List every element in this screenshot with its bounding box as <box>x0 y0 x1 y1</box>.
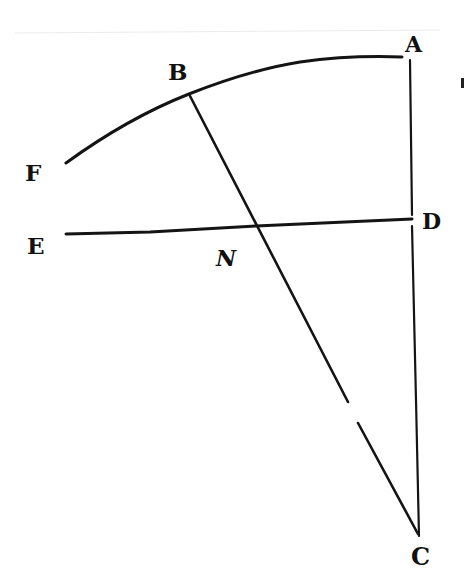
line-ac <box>410 60 419 536</box>
label-d: D <box>422 208 441 234</box>
label-n: N <box>215 245 237 271</box>
label-e: E <box>27 232 45 259</box>
arc-fba <box>66 57 402 163</box>
line-ed <box>66 219 412 234</box>
label-f: F <box>25 159 42 186</box>
line-bc <box>190 96 418 534</box>
scan-artifact-line <box>15 30 440 33</box>
label-a: A <box>404 31 423 57</box>
label-c: C <box>411 542 430 571</box>
geometry-diagram: A B F E N D C <box>0 0 464 576</box>
label-b: B <box>168 58 187 85</box>
